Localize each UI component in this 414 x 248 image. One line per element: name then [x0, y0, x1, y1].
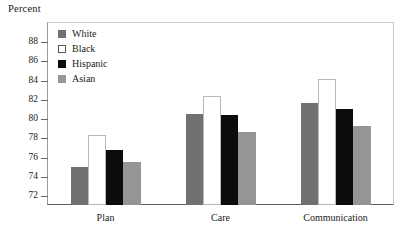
bar-asian-plan [123, 162, 141, 205]
chart-legend: White Black Hispanic Asian [58, 27, 108, 87]
legend-item-hispanic: Hispanic [58, 57, 108, 70]
gray-swatch-icon [58, 30, 66, 38]
x-axis-label-communication: Communication [278, 212, 393, 223]
legend-label: White [72, 29, 96, 39]
legend-label: Black [72, 44, 95, 54]
bar-white-communication [301, 103, 319, 205]
x-axis-label-plan: Plan [48, 212, 163, 223]
legend-item-black: Black [58, 42, 108, 55]
bar-chart: Percent 727476788082848688 PlanCareCommu… [0, 0, 414, 248]
bar-white-plan [71, 167, 89, 205]
bar-hispanic-communication [336, 109, 354, 205]
light-gray-swatch-icon [58, 75, 66, 83]
legend-item-white: White [58, 27, 108, 40]
bar-black-plan [88, 135, 106, 205]
legend-label: Asian [72, 74, 95, 84]
bar-black-care [203, 96, 221, 205]
bar-black-communication [318, 79, 336, 205]
black-swatch-icon [58, 60, 66, 68]
white-swatch-icon [58, 45, 66, 53]
bar-white-care [186, 114, 204, 205]
legend-item-asian: Asian [58, 72, 108, 85]
x-axis-label-care: Care [163, 212, 278, 223]
bar-hispanic-care [221, 115, 239, 205]
bar-hispanic-plan [106, 150, 124, 205]
bar-asian-care [238, 132, 256, 205]
legend-label: Hispanic [72, 59, 108, 69]
bar-asian-communication [353, 126, 371, 205]
